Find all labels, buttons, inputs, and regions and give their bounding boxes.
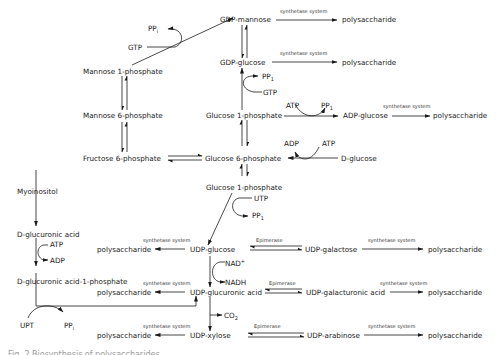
enzyme-synthetase-adp-glucose: synthetase system — [383, 104, 430, 109]
enzyme-epimerase-galactose: Epimerase — [256, 238, 282, 243]
product-polysaccharide-2: polysaccharide — [342, 59, 396, 66]
enzyme-synthetase-udp-xylose: synthetase system — [143, 324, 190, 329]
cofactor-nad: NAD+ — [225, 259, 245, 267]
product-polysaccharide-1: polysaccharide — [342, 16, 396, 23]
enzyme-synthetase-udp-arabinose: synthetase system — [368, 324, 415, 329]
cofactor-atp-d-glucose: ATP — [322, 140, 335, 147]
node-d-glucuronic-acid-1-phosphate: D-glucuronic acid-1-phosphate — [17, 278, 127, 285]
node-adp-glucose: ADP-glucose — [343, 112, 388, 119]
node-udp-glucuronic-acid: UDP-glucuronic acid — [190, 289, 262, 296]
node-glucose-1-phosphate-top: Glucose 1-phosphate — [206, 112, 282, 119]
enzyme-synthetase-gdp-glucose: synthetase system — [280, 51, 327, 56]
node-udp-xylose: UDP-xylose — [190, 332, 231, 339]
enzyme-synthetase-udp-galacturonic: synthetase system — [380, 281, 427, 286]
cofactor-atp-glucuronic: ATP — [50, 241, 63, 248]
cofactor-pp-mannose: PPi — [148, 25, 158, 34]
node-gdp-glucose: GDP-glucose — [220, 59, 266, 66]
node-fructose-6-phosphate: Fructose 6-phosphate — [83, 155, 161, 162]
node-gdp-mannose: GDP-mannose — [220, 16, 271, 23]
enzyme-synthetase-udp-glucose: synthetase system — [143, 238, 190, 243]
pathway-arrows — [0, 0, 496, 355]
cofactor-atp-adp-glucose: ATP — [286, 102, 299, 109]
enzyme-synthetase-gdp-mannose: synthetase system — [280, 9, 327, 14]
node-d-glucose: D-glucose — [341, 155, 377, 162]
cofactor-gtp-gdp-glucose: GTP — [263, 89, 277, 96]
node-udp-galacturonic-acid: UDP-galacturonic acid — [306, 289, 385, 296]
node-mannose-1-phosphate: Mannose 1-phosphate — [83, 68, 163, 75]
figure-caption: Fig. 2 Biosynthesis of polysaccharides — [8, 350, 160, 355]
node-udp-glucose: UDP-glucose — [190, 246, 235, 253]
product-polysaccharide-6: polysaccharide — [97, 289, 151, 296]
cofactor-adp-glucuronic: ADP — [50, 257, 65, 264]
cofactor-gtp-mannose: GTP — [128, 44, 142, 51]
product-polysaccharide-7: polysaccharide — [428, 289, 482, 296]
cofactor-pp-gdp-glucose: PP1 — [262, 73, 274, 82]
product-polysaccharide-4: polysaccharide — [97, 246, 151, 253]
cofactor-nadh: NADH — [225, 279, 246, 286]
product-polysaccharide-5: polysaccharide — [428, 246, 482, 253]
product-polysaccharide-8: polysaccharide — [97, 332, 151, 339]
cofactor-pp-adp-glucose: PP1 — [321, 102, 333, 111]
enzyme-synthetase-udp-galactose: synthetase system — [368, 238, 415, 243]
node-myoinositol: Myoinositol — [17, 188, 58, 195]
enzyme-synthetase-udp-glucuronic: synthetase system — [143, 281, 190, 286]
product-polysaccharide-3: polysaccharide — [433, 112, 487, 119]
node-mannose-6-phosphate: Mannose 6-phosphate — [83, 112, 163, 119]
node-udp-arabinose: UDP-arabinose — [307, 332, 360, 339]
cofactor-utp: UTP — [254, 195, 268, 202]
cofactor-pp-upt: PPi — [64, 322, 74, 331]
cofactor-adp-d-glucose: ADP — [284, 140, 299, 147]
node-udp-galactose: UDP-galactose — [305, 246, 357, 253]
enzyme-epimerase-arabinose: Epimerase — [254, 324, 280, 329]
cofactor-pp-utp: PP1 — [252, 212, 264, 221]
node-glucose-6-phosphate: Glucose 6-phosphate — [205, 155, 281, 162]
node-glucose-1-phosphate-bottom: Glucose 1-phosphate — [206, 184, 282, 191]
cofactor-upt: UPT — [20, 322, 34, 329]
product-polysaccharide-9: polysaccharide — [428, 332, 482, 339]
enzyme-epimerase-galacturonic: Epimerase — [269, 281, 295, 286]
cofactor-co2: CO2 — [224, 312, 238, 321]
node-d-glucuronic-acid: D-glucuronic acid — [17, 231, 80, 238]
pathway-diagram: PPi GTP Mannose 1-phosphate Mannose 6-ph… — [0, 0, 496, 355]
